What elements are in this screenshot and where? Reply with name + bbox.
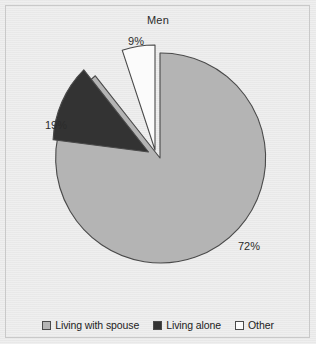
chart-legend: Living with spouse Living alone Other — [0, 319, 316, 331]
legend-label-living-with-spouse: Living with spouse — [55, 319, 139, 331]
pie-label-living-alone: 19% — [45, 119, 67, 131]
chart-title: Men — [0, 14, 316, 26]
legend-swatch-icon-other — [235, 321, 244, 330]
legend-item-living-alone[interactable]: Living alone — [153, 319, 221, 331]
legend-swatch-icon-living-with-spouse — [42, 321, 51, 330]
legend-label-living-alone: Living alone — [166, 319, 221, 331]
legend-item-living-with-spouse[interactable]: Living with spouse — [42, 319, 139, 331]
pie-chart-plot: 72% 19% 9% — [0, 28, 316, 290]
legend-label-other: Other — [248, 319, 274, 331]
pie-label-living-with-spouse: 72% — [238, 240, 260, 252]
legend-swatch-icon-living-alone — [153, 321, 162, 330]
legend-item-other[interactable]: Other — [235, 319, 274, 331]
pie-label-other: 9% — [128, 35, 144, 47]
pie-chart-figure: Men 72% 19% 9% Living with spouse Living… — [0, 0, 316, 344]
